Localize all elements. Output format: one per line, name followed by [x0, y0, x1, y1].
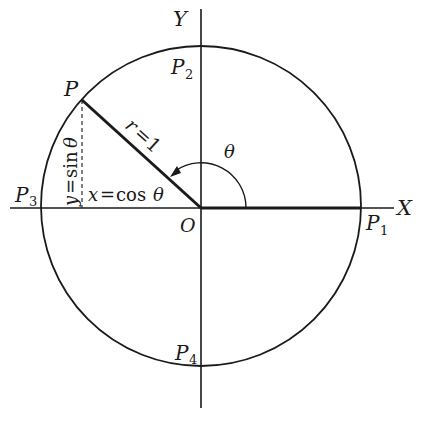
svg-text:θ: θ	[60, 137, 81, 148]
origin-label: O	[180, 214, 196, 236]
svg-text:P: P	[170, 55, 185, 79]
cosine-label: x = cos θ	[88, 184, 164, 205]
point-p3-label: P 3	[14, 183, 37, 209]
svg-text:cos: cos	[116, 184, 146, 205]
svg-text:3: 3	[29, 194, 37, 209]
point-p-label: P	[63, 77, 79, 101]
sine-label: y = sin θ	[60, 137, 81, 207]
svg-text:y: y	[60, 195, 81, 207]
x-axis-label: X	[395, 196, 413, 220]
point-p4-label: P 4	[174, 341, 197, 367]
svg-text:θ: θ	[153, 184, 164, 205]
angle-arc	[175, 163, 246, 208]
radius-label: r = 1	[121, 114, 166, 157]
svg-text:x: x	[88, 184, 98, 205]
svg-text:=: =	[60, 179, 81, 194]
svg-text:P: P	[14, 183, 29, 207]
y-axis-label: Y	[173, 7, 189, 31]
svg-text:=: =	[100, 184, 115, 205]
svg-text:1: 1	[380, 223, 388, 238]
svg-text:P: P	[365, 211, 380, 235]
unit-circle-diagram: Y X O P P 2 P 3 P 1 P 4 r = 1 θ x = cos …	[0, 0, 427, 422]
svg-text:2: 2	[185, 67, 193, 82]
point-p1-label: P 1	[365, 211, 388, 238]
svg-text:4: 4	[189, 352, 197, 367]
angle-theta-label: θ	[224, 141, 235, 162]
svg-text:sin: sin	[60, 151, 81, 178]
point-p2-label: P 2	[170, 55, 193, 82]
svg-text:P: P	[174, 341, 189, 365]
